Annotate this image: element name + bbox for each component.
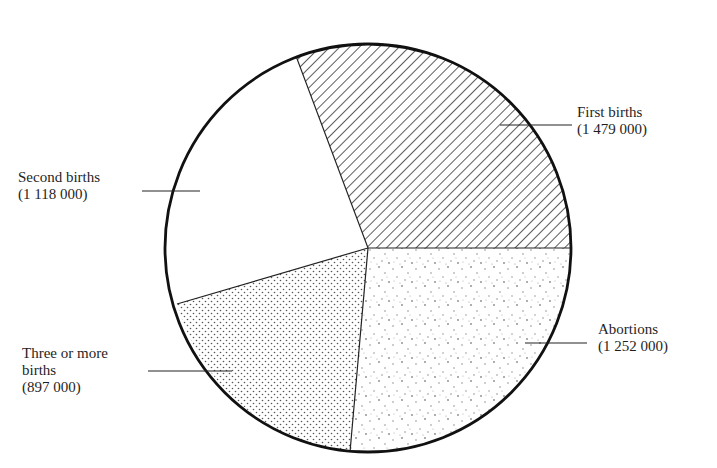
- label-three-or-more-value: (897 000): [22, 379, 108, 396]
- label-second-births-value: (1 118 000): [18, 186, 100, 203]
- label-three-or-more-births: Three or more births (897 000): [22, 345, 108, 396]
- label-abortions-name: Abortions: [598, 321, 668, 338]
- label-second-births: Second births (1 118 000): [18, 169, 100, 203]
- label-abortions: Abortions (1 252 000): [598, 321, 668, 355]
- label-abortions-value: (1 252 000): [598, 338, 668, 355]
- label-three-or-more-name-2: births: [22, 362, 108, 379]
- label-first-births-name: First births: [577, 104, 647, 121]
- pie-chart: [0, 0, 717, 468]
- label-three-or-more-name-1: Three or more: [22, 345, 108, 362]
- slice-abortions: [350, 248, 571, 453]
- label-second-births-name: Second births: [18, 169, 100, 186]
- label-first-births: First births (1 479 000): [577, 104, 647, 138]
- label-first-births-value: (1 479 000): [577, 121, 647, 138]
